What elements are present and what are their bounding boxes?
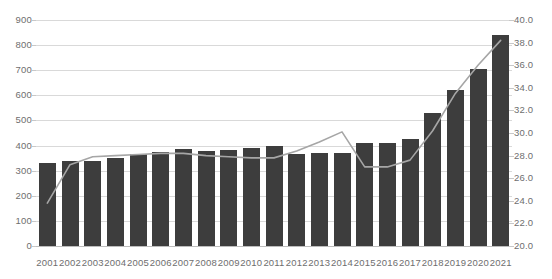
bar — [424, 113, 441, 246]
bar — [152, 152, 169, 246]
bar — [402, 139, 419, 246]
bar — [84, 161, 101, 246]
bar — [470, 69, 487, 246]
bar — [130, 154, 147, 246]
plot-area — [0, 0, 552, 279]
bar — [107, 158, 124, 246]
bar — [447, 90, 464, 246]
bar — [220, 150, 237, 246]
bar — [334, 153, 351, 246]
bar — [311, 153, 328, 246]
bar — [243, 148, 260, 246]
bar — [39, 163, 56, 246]
chart-container: 0100200300400500600700800900 20.022.024.… — [0, 0, 552, 279]
bar — [288, 154, 305, 246]
bar — [198, 151, 215, 246]
bar — [62, 161, 79, 246]
bar — [266, 146, 283, 246]
bar — [356, 143, 373, 246]
bar — [175, 149, 192, 246]
bar — [492, 35, 509, 246]
x-axis-tick-label: 2021 — [488, 258, 514, 268]
bar — [379, 143, 396, 246]
